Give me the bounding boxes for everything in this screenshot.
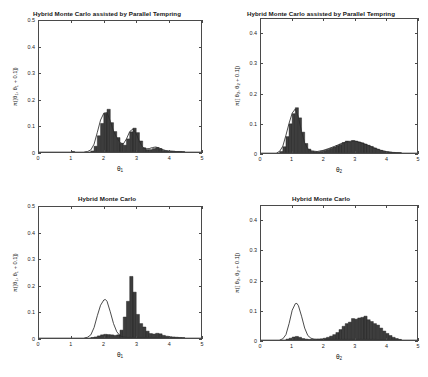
x-tick-mark-top — [202, 20, 203, 23]
histogram-bar — [330, 148, 333, 153]
x-tick-mark-top — [169, 206, 170, 209]
y-tick-mark — [260, 33, 263, 34]
x-tick-mark-top — [418, 18, 419, 21]
histogram-bar — [367, 320, 370, 340]
histogram-bar — [339, 144, 342, 153]
x-axis-label: θ1 — [117, 351, 123, 359]
histogram-bar — [373, 324, 376, 340]
histogram-bar — [126, 139, 129, 152]
histogram-bar — [342, 326, 345, 340]
x-tick-label: 3 — [353, 156, 356, 162]
histogram-bar — [143, 327, 146, 338]
x-tick-mark-top — [71, 20, 72, 23]
histogram-bar — [358, 318, 361, 340]
histogram-bar — [370, 322, 373, 340]
y-tick-mark-right — [199, 286, 202, 287]
y-tick-label: 0 — [16, 150, 35, 156]
histogram-bar — [355, 319, 358, 340]
x-tick-label: 5 — [417, 343, 420, 349]
panel-title: Hybrid Monte Carlo — [0, 195, 214, 202]
x-tick-label: 2 — [102, 341, 105, 347]
histogram-bar — [292, 114, 295, 153]
y-tick-mark-right — [415, 154, 418, 155]
y-tick-label: 0 — [238, 338, 257, 344]
x-axis-label-index: 1 — [121, 168, 124, 173]
y-tick-label: 0 — [238, 151, 257, 157]
x-tick-mark-top — [292, 205, 293, 208]
x-tick-mark-top — [136, 206, 137, 209]
histogram-bar — [133, 292, 136, 338]
x-tick-mark — [136, 150, 137, 153]
x-tick-mark — [418, 338, 419, 341]
y-tick-mark-right — [199, 339, 202, 340]
x-tick-mark — [323, 338, 324, 341]
x-tick-mark-top — [292, 18, 293, 21]
x-axis-label: θ1 — [117, 165, 123, 173]
x-tick-label: 3 — [353, 343, 356, 349]
histogram-bar — [327, 149, 330, 153]
x-tick-mark — [169, 336, 170, 339]
histogram-bar — [348, 322, 351, 340]
x-tick-mark-top — [386, 205, 387, 208]
x-tick-mark — [292, 151, 293, 154]
histogram-bar — [339, 330, 342, 340]
histogram-bar — [364, 144, 367, 153]
x-tick-mark-top — [323, 18, 324, 21]
x-tick-mark — [71, 336, 72, 339]
x-tick-label: 2 — [102, 155, 105, 161]
histogram-bar — [146, 331, 149, 338]
histogram-bar — [149, 150, 152, 152]
histogram-bar — [336, 333, 339, 340]
y-tick-mark — [260, 250, 263, 251]
y-tick-label: 0.5 — [16, 17, 35, 23]
histogram-bar — [348, 142, 351, 153]
y-tick-mark-right — [415, 281, 418, 282]
x-tick-mark-top — [323, 205, 324, 208]
x-tick-label: 3 — [135, 155, 138, 161]
x-tick-mark — [202, 150, 203, 153]
histogram-bar — [156, 148, 159, 152]
histogram-bar — [283, 147, 286, 153]
x-tick-label: 2 — [322, 156, 325, 162]
x-tick-mark — [355, 151, 356, 154]
y-tick-mark-right — [199, 20, 202, 21]
x-tick-mark — [418, 151, 419, 154]
x-tick-label: 5 — [201, 155, 204, 161]
x-tick-label: 4 — [168, 341, 171, 347]
histogram-bar — [146, 150, 149, 152]
x-tick-mark-top — [136, 20, 137, 23]
y-tick-label: 0.1 — [238, 308, 257, 314]
x-axis-label-index: 1 — [121, 354, 124, 359]
y-tick-mark — [260, 154, 263, 155]
x-tick-label: 2 — [322, 343, 325, 349]
x-axis-label: θ2 — [336, 166, 342, 174]
histogram-bar — [120, 143, 123, 152]
x-axis-label-index: 2 — [340, 356, 343, 361]
x-tick-label: 1 — [290, 156, 293, 162]
y-tick-mark-right — [199, 153, 202, 154]
x-tick-label: 4 — [385, 156, 388, 162]
y-tick-mark — [38, 126, 41, 127]
y-tick-mark-right — [415, 33, 418, 34]
plot-area — [260, 205, 418, 341]
x-tick-mark — [386, 338, 387, 341]
plot-svg — [39, 207, 201, 338]
y-tick-mark-right — [415, 220, 418, 221]
histogram-bar — [336, 146, 339, 153]
x-tick-mark — [323, 151, 324, 154]
y-tick-mark — [38, 259, 41, 260]
y-tick-mark — [260, 220, 263, 221]
x-tick-mark — [202, 336, 203, 339]
plot-svg — [39, 21, 201, 152]
plot-svg — [261, 206, 417, 340]
x-tick-label: 1 — [290, 343, 293, 349]
histogram-bar — [123, 145, 126, 152]
x-tick-mark — [355, 338, 356, 341]
histogram-bar — [292, 337, 295, 340]
x-tick-label: 1 — [69, 155, 72, 161]
y-tick-label: 0.4 — [16, 44, 35, 50]
y-tick-label: 0.1 — [238, 121, 257, 127]
x-tick-mark — [71, 150, 72, 153]
y-tick-mark — [38, 73, 41, 74]
x-tick-mark-top — [169, 20, 170, 23]
